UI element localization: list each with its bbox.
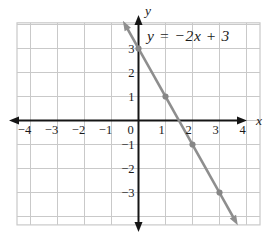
x-tick-label: 4 xyxy=(239,123,246,137)
y-axis-top-arrow xyxy=(135,15,143,25)
origin-label: 0 xyxy=(127,123,133,137)
x-tick-label: 1 xyxy=(158,123,164,137)
x-tick-label: −4 xyxy=(18,123,32,137)
x-tick-label: 2 xyxy=(185,123,191,137)
x-tick-label: 3 xyxy=(212,123,218,137)
y-tick-label: −1 xyxy=(121,138,134,152)
y-axis-label: y xyxy=(143,3,151,18)
point-3--3 xyxy=(216,189,222,195)
x-tick-label: −3 xyxy=(45,123,58,137)
equation-label: y = −2x + 3 xyxy=(145,27,230,44)
y-tick-label: 3 xyxy=(128,42,134,56)
y-tick-label: 2 xyxy=(128,66,134,80)
coordinate-graph: −4−3−2−11234321−1−2−30xyy = −2x + 3 xyxy=(0,0,275,238)
x-axis-label: x xyxy=(255,113,262,128)
x-tick-label: −1 xyxy=(99,123,112,137)
y-tick-label: −3 xyxy=(121,186,134,200)
x-tick-label: −2 xyxy=(72,123,85,137)
point-2--1 xyxy=(189,141,195,147)
graph-figure: −4−3−2−11234321−1−2−30xyy = −2x + 3 xyxy=(0,0,275,238)
y-axis-bottom-arrow xyxy=(135,222,143,232)
point-1-1 xyxy=(162,93,168,99)
y-tick-label: −2 xyxy=(121,162,134,176)
y-tick-label: 1 xyxy=(128,90,134,104)
point-0-3 xyxy=(135,45,141,51)
